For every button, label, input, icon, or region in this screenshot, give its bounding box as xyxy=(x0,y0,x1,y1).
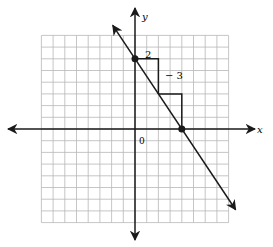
coordinate-graph: x y 0 2 − 3 xyxy=(0,0,273,247)
run-label: − 3 xyxy=(165,70,183,81)
y-axis-label: y xyxy=(141,11,148,22)
x-intercept-point xyxy=(178,126,185,133)
origin-label: 0 xyxy=(139,136,145,146)
x-axis-label: x xyxy=(257,124,263,135)
y-intercept-point xyxy=(132,55,139,62)
rise-label: 2 xyxy=(145,49,151,60)
